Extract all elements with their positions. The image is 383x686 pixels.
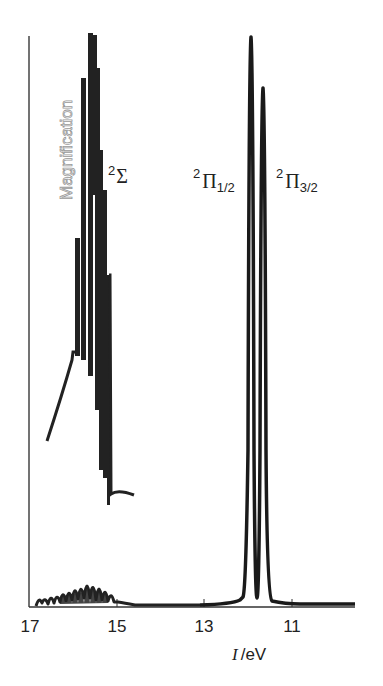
x-tick-label: 11 [283,617,301,636]
pi-half-state-label: 2Π1/2 [193,166,235,195]
x-axis-unit: /eV [241,645,267,664]
photoelectron-spectrum-chart: 17 15 13 11 I/eV Magnification 2Σ 2Π1/2 … [0,0,383,686]
x-tick-label: 15 [108,617,127,636]
magnification-label: Magnification [57,100,76,200]
x-axis-title: I/eV [231,645,267,664]
x-tick-label: 13 [195,617,214,636]
x-axis-symbol: I [231,645,239,664]
pi-three-half-state-label: 2Π3/2 [276,166,318,195]
sigma-state-label: 2Σ [108,163,128,187]
x-tick-label: 17 [21,617,40,636]
pi-band-trace [200,37,355,605]
